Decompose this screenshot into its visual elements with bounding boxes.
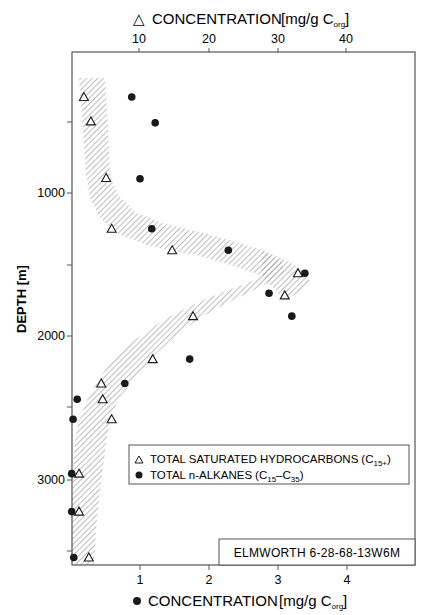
n-alkane-point xyxy=(148,225,156,233)
bottom-tick-1: 1 xyxy=(137,573,144,587)
depth-axis-ticks: 1000 2000 3000 xyxy=(37,122,72,551)
filled-circle-symbol xyxy=(133,597,141,605)
depth-axis-title: DEPTH [m] xyxy=(14,265,29,333)
n-alkane-point xyxy=(288,312,296,320)
depth-profile-chart: △ CONCENTRATION [mg/g Corg] 10 20 30 40 … xyxy=(0,0,431,615)
top-tick-10: 10 xyxy=(132,32,146,46)
depth-tick-2000: 2000 xyxy=(37,329,65,343)
n-alkane-point xyxy=(68,470,76,478)
bottom-axis-unit: [mg/g Corg] xyxy=(279,592,347,611)
n-alkane-point xyxy=(128,93,136,101)
n-alkane-point xyxy=(136,175,144,183)
n-alkane-point xyxy=(73,395,81,403)
top-axis-unit: [mg/g Corg] xyxy=(281,10,349,29)
legend: TOTAL SATURATED HYDROCARBONS(C15+) TOTAL… xyxy=(129,445,409,484)
n-alkane-point xyxy=(151,119,159,127)
n-alkane-point xyxy=(70,554,78,562)
bottom-axis-title: CONCENTRATION [mg/g Corg] xyxy=(133,592,347,611)
top-axis-title: △ CONCENTRATION [mg/g Corg] xyxy=(133,10,349,29)
top-tick-20: 20 xyxy=(202,32,216,46)
bottom-tick-4: 4 xyxy=(344,573,351,587)
n-alkane-point xyxy=(69,415,77,423)
top-tick-40: 40 xyxy=(339,32,353,46)
well-annotation: ELMWORTH 6-28-68-13W6M xyxy=(219,539,415,565)
n-alkane-point xyxy=(186,355,194,363)
n-alkane-point xyxy=(68,508,76,516)
n-alkane-point xyxy=(225,246,233,254)
top-axis-ticks: 10 20 30 40 xyxy=(132,32,353,52)
top-tick-30: 30 xyxy=(271,32,285,46)
hatched-trend-band xyxy=(72,78,310,565)
bottom-tick-3: 3 xyxy=(275,573,282,587)
bottom-axis-label: CONCENTRATION xyxy=(148,592,278,609)
well-id: ELMWORTH 6-28-68-13W6M xyxy=(234,546,400,560)
legend-dot-icon xyxy=(136,472,143,479)
top-axis-label: CONCENTRATION xyxy=(152,10,282,27)
n-alkane-point xyxy=(121,380,129,388)
bottom-axis-ticks: 1 2 3 4 xyxy=(137,565,351,587)
plot-frame xyxy=(72,52,415,565)
open-triangle-symbol: △ xyxy=(133,10,145,27)
depth-tick-3000: 3000 xyxy=(37,473,65,487)
n-alkane-point xyxy=(265,289,273,297)
bottom-tick-2: 2 xyxy=(206,573,213,587)
n-alkane-point xyxy=(301,269,309,277)
depth-tick-1000: 1000 xyxy=(37,186,65,200)
